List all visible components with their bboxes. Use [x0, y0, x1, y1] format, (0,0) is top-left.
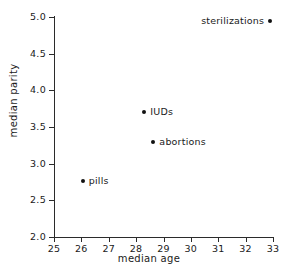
- y-axis-tick-label: 2.0: [30, 232, 46, 242]
- y-axis-tick: [49, 200, 54, 201]
- x-axis-tick: [164, 237, 165, 242]
- data-point-abortions[interactable]: [151, 140, 155, 144]
- x-axis-tick: [109, 237, 110, 242]
- y-axis-tick: [49, 54, 54, 55]
- y-axis-tick: [49, 90, 54, 91]
- y-axis-tick: [49, 164, 54, 165]
- scatter-plot-figure: 2.02.53.03.54.04.55.0252627282930313233p…: [0, 0, 298, 276]
- x-axis-tick: [246, 237, 247, 242]
- data-point-sterilizations[interactable]: [268, 19, 272, 23]
- x-axis-tick: [54, 237, 55, 242]
- y-axis-tick: [49, 127, 54, 128]
- data-point-iuds[interactable]: [142, 110, 146, 114]
- y-axis-tick-label: 2.5: [30, 196, 46, 206]
- y-axis-tick-label: 3.5: [30, 122, 46, 132]
- y-axis-tick-label: 4.0: [30, 86, 46, 96]
- y-axis-title: median parity: [8, 26, 19, 176]
- y-axis-tick-label: 4.5: [30, 49, 46, 59]
- y-axis-tick-label: 5.0: [30, 12, 46, 22]
- x-axis-tick: [273, 237, 274, 242]
- data-point-label: abortions: [159, 137, 206, 147]
- x-axis-tick: [191, 237, 192, 242]
- x-axis-title: median age: [0, 253, 298, 264]
- x-axis-tick: [218, 237, 219, 242]
- data-point-label: IUDs: [150, 108, 173, 118]
- data-point-pills[interactable]: [81, 179, 85, 183]
- y-axis-tick: [49, 17, 54, 18]
- x-axis-tick: [136, 237, 137, 242]
- data-point-label: sterilizations: [201, 16, 264, 26]
- y-axis-tick-label: 3.0: [30, 159, 46, 169]
- x-axis-tick: [81, 237, 82, 242]
- data-point-label: pills: [89, 176, 109, 186]
- plot-area: 2.02.53.03.54.04.55.0252627282930313233p…: [54, 17, 273, 237]
